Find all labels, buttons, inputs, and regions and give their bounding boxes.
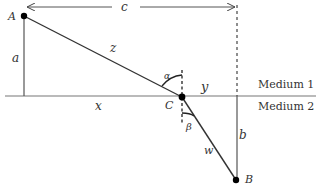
label-medium-2: Medium 2 xyxy=(258,100,314,113)
label-x: x xyxy=(95,99,102,113)
label-b: b xyxy=(239,128,247,142)
label-alpha: α xyxy=(164,71,170,81)
label-c: c xyxy=(121,0,128,14)
point-c xyxy=(179,94,186,101)
label-beta: β xyxy=(185,121,192,132)
label-medium-1: Medium 1 xyxy=(258,78,314,91)
label-z: z xyxy=(109,41,117,55)
label-point-b: B xyxy=(244,173,253,185)
point-b xyxy=(233,177,239,183)
refraction-diagram: A B C c z a x y b w α β Medium 1 Medium … xyxy=(0,0,316,185)
point-a xyxy=(21,13,27,19)
label-y: y xyxy=(200,79,209,94)
label-w: w xyxy=(204,144,214,157)
label-a: a xyxy=(12,51,19,65)
label-point-a: A xyxy=(7,10,16,23)
label-point-c: C xyxy=(165,99,174,112)
segment-w xyxy=(182,97,236,180)
segment-z xyxy=(24,16,182,97)
